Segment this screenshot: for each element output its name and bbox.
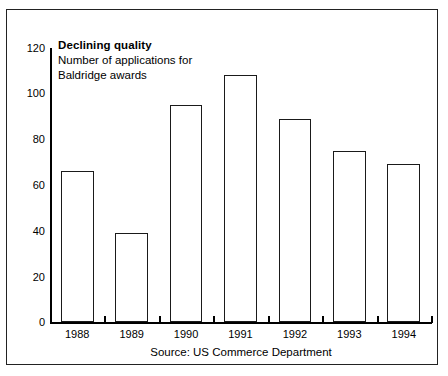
x-tick-label-1990: 1990 [156,328,216,340]
x-tick-label-1991: 1991 [211,328,271,340]
plot-area [50,48,431,322]
bar-1992 [279,119,312,322]
y-tick-label-0: 0 [11,317,45,328]
bar-chart-figure: Declining quality Number of applications… [0,0,448,376]
bar-1988 [61,171,94,322]
x-tick-mark-1 [104,316,106,323]
x-tick-mark-2 [159,316,161,323]
x-tick-label-1989: 1989 [102,328,162,340]
bar-1991 [224,75,257,322]
x-tick-label-1994: 1994 [374,328,434,340]
x-tick-mark-3 [213,316,215,323]
bar-1993 [333,151,366,322]
x-tick-mark-7 [431,316,433,323]
x-tick-mark-6 [377,316,379,323]
bar-1989 [115,233,148,322]
y-tick-label-80: 80 [11,134,45,145]
y-tick-label-100: 100 [11,88,45,99]
x-tick-mark-4 [268,316,270,323]
bar-1990 [170,105,203,322]
x-axis-line [50,322,432,324]
source-note: Source: US Commerce Department [50,346,432,359]
chart-frame: Declining quality Number of applications… [6,9,438,365]
x-tick-label-1993: 1993 [319,328,379,340]
y-axis-tick-labels: 120 100 80 60 40 20 0 [7,10,45,376]
y-tick-label-20: 20 [11,272,45,283]
x-tick-label-1988: 1988 [47,328,107,340]
x-tick-label-1992: 1992 [265,328,325,340]
bar-1994 [387,164,420,322]
y-tick-label-120: 120 [11,43,45,54]
x-tick-mark-5 [322,316,324,323]
y-tick-label-40: 40 [11,226,45,237]
y-tick-label-60: 60 [11,180,45,191]
